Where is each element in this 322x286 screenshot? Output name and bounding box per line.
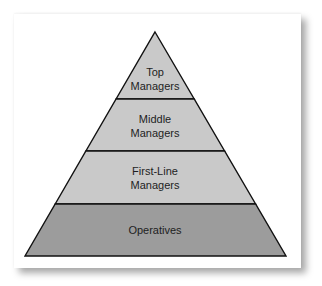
layer-label-middle-1: Middle [139,113,171,125]
layer-label-top-1: Top [146,66,164,78]
layer-label-firstline-1: First-Line [132,165,178,177]
layer-label-firstline-2: Managers [131,179,180,191]
layer-middle-managers [86,99,225,151]
layer-label-operatives: Operatives [128,224,182,236]
layer-first-line-managers [55,151,255,204]
layer-label-top-2: Managers [131,80,180,92]
management-pyramid: Top Managers Middle Managers First-Line … [0,0,322,286]
layer-label-middle-2: Managers [131,127,180,139]
